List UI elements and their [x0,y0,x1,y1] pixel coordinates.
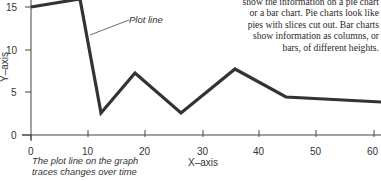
x-tick-label: 50 [310,146,322,157]
y-tick-label: 5 [11,87,17,98]
x-tick-label: 60 [367,146,379,157]
caption-line: traces changes over time [32,166,192,177]
side-text-line: pies with slices cut out. Bar charts [207,19,379,30]
plot-line-callout: Plot line [90,14,163,35]
side-text-line: or a bar chart. Pie charts look like [207,7,379,18]
y-tick-label: 15 [6,2,18,13]
callout-label: Plot line [129,14,163,25]
chart-caption: The plot line on the graph traces change… [32,155,192,177]
x-tick-label: 30 [197,146,209,157]
side-text-line: show information as columns, or [207,30,379,41]
x-tick-label: 40 [253,146,265,157]
y-axis: 15 10 5 0 Y–axis [0,0,31,141]
x-axis-title: X–axis [188,157,218,168]
y-tick-label: 0 [11,130,17,141]
side-text-line: show the information on a pie chart [207,0,379,7]
side-text-line: bars, of different heights. [207,42,379,53]
callout-leader-line [90,20,129,35]
y-axis-title: Y–axis [0,52,10,82]
side-description: show the information on a pie chart or a… [207,0,379,53]
caption-line: The plot line on the graph [32,155,192,166]
